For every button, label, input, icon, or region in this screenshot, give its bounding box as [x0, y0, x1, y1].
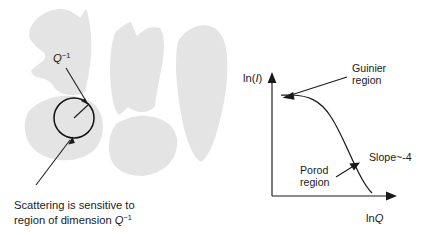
plot-axes-group — [268, 72, 397, 200]
caption-line-2: region of dimension Q−1 — [14, 213, 132, 226]
figure-svg: Q−1 Scattering is sensitive to region of… — [0, 0, 431, 235]
guinier-leader-line — [291, 77, 347, 95]
porod-label-line-1: Porod — [300, 164, 328, 176]
blob-middle-lower — [109, 116, 177, 176]
caption-line-2-superscript: −1 — [123, 213, 131, 222]
x-axis-label: lnQ — [366, 212, 384, 224]
q-inverse-symbol: Q — [53, 52, 62, 64]
porod-leader-line — [336, 167, 352, 177]
x-axis-label-prefix: ln — [366, 212, 375, 224]
blob-middle-upper — [110, 22, 164, 115]
caption-line-2-prefix: region of dimension — [14, 214, 115, 226]
guinier-label-line-2: region — [352, 74, 382, 86]
x-axis-label-symbol: Q — [375, 212, 384, 224]
q-inverse-superscript: −1 — [62, 51, 70, 60]
blob-right — [176, 25, 227, 162]
y-axis-label: ln(I) — [243, 72, 263, 84]
caption-line-1: Scattering is sensitive to — [14, 199, 135, 211]
figure-container: Q−1 Scattering is sensitive to region of… — [0, 0, 431, 235]
slope-label: Slope~-4 — [369, 151, 412, 163]
porod-label-line-2: region — [300, 176, 330, 188]
y-axis-label-suffix: ) — [259, 72, 263, 84]
y-axis-arrowhead — [268, 72, 277, 83]
particle-blob-group — [25, 9, 228, 176]
y-axis-label-prefix: ln( — [243, 72, 256, 84]
guinier-arrowhead — [283, 92, 295, 100]
x-axis-arrowhead — [386, 192, 397, 201]
guinier-annotation-group — [283, 77, 348, 100]
guinier-label-line-1: Guinier — [352, 62, 387, 74]
caption-line-2-symbol: Q — [115, 214, 124, 226]
porod-arrowhead — [349, 163, 360, 171]
porod-annotation-group — [336, 163, 360, 178]
